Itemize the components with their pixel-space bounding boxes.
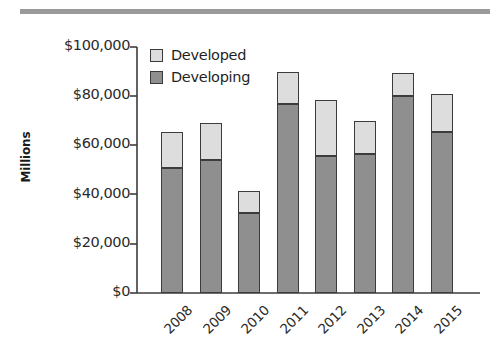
legend-item: Developing xyxy=(150,69,250,85)
legend-swatch-icon xyxy=(150,71,163,84)
bar-segment-developing xyxy=(392,96,414,293)
bar-segment-developing xyxy=(431,132,453,293)
bar-segment-developed xyxy=(354,121,376,154)
bar-segment-developed xyxy=(315,100,337,157)
bar-segment-developed xyxy=(392,73,414,96)
bar-segment-developing xyxy=(161,168,183,293)
bar-segment-developing xyxy=(354,154,376,293)
bar-segment-developed xyxy=(277,72,299,104)
bar-segment-developed xyxy=(238,191,260,213)
stacked-bar-chart: Millions $100,000$80,000$60,000$40,000$2… xyxy=(0,0,495,355)
bar-segment-developing xyxy=(315,156,337,293)
legend-item: Developed xyxy=(150,47,246,63)
bar-segment-developing xyxy=(277,104,299,293)
bar-segment-developed xyxy=(161,132,183,168)
axis-lines xyxy=(0,0,495,355)
bar-segment-developed xyxy=(431,94,453,132)
legend-swatch-icon xyxy=(150,49,163,62)
bar-segment-developing xyxy=(238,213,260,293)
legend-label: Developed xyxy=(171,47,246,63)
bar-segment-developing xyxy=(200,160,222,293)
bar-segment-developed xyxy=(200,123,222,160)
legend-label: Developing xyxy=(171,69,250,85)
